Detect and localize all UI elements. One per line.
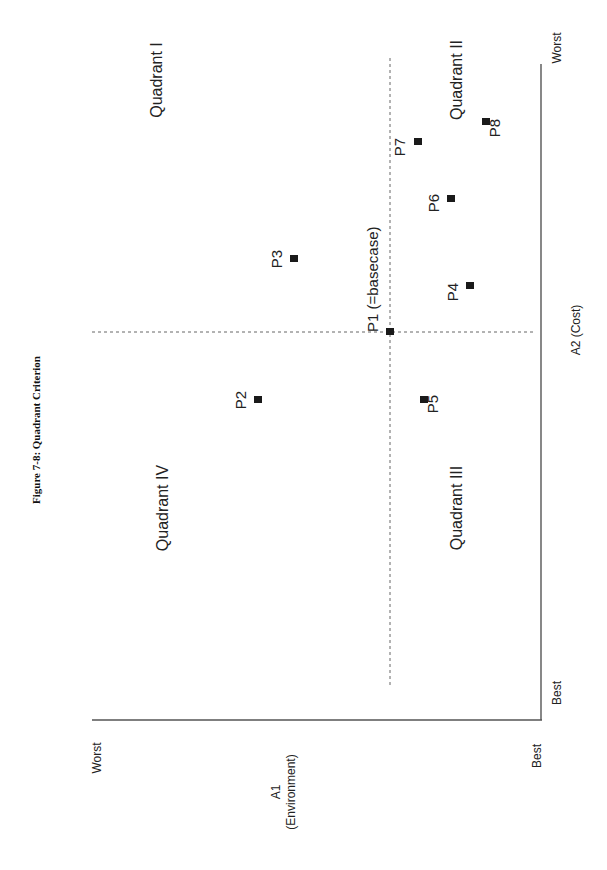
chart-title: Figure 7-8: Quadrant Criterion — [30, 356, 42, 504]
quadrant-label: Quadrant III — [448, 466, 465, 551]
a2-best-label: Best — [550, 680, 564, 705]
square-marker-icon — [466, 282, 474, 289]
square-marker-icon — [290, 255, 298, 262]
data-point: P6 — [425, 194, 455, 212]
point-label: P6 — [425, 194, 442, 212]
quadrant-labels: Quadrant IQuadrant IIQuadrant IIIQuadran… — [148, 40, 465, 551]
square-marker-icon — [386, 328, 394, 335]
data-point: P8 — [482, 118, 503, 137]
a1-axis-label-line1: A1 — [269, 784, 283, 799]
point-label: P1 (=basecase) — [364, 227, 381, 332]
data-points: P1 (=basecase)P2P3P4P5P6P7P8 — [232, 118, 503, 413]
a1-best-label: Best — [530, 743, 544, 768]
point-label: P2 — [232, 391, 249, 409]
square-marker-icon — [447, 195, 455, 202]
point-label: P8 — [486, 119, 503, 137]
a2-axis-label: A2 (Cost) — [569, 305, 583, 356]
point-label: P7 — [391, 138, 408, 156]
a2-worst-label: Worst — [550, 32, 564, 64]
a1-worst-label: Worst — [90, 742, 104, 774]
quadrant-label: Quadrant I — [148, 42, 165, 118]
point-label: P4 — [444, 283, 461, 301]
data-point: P5 — [420, 395, 441, 413]
quadrant-chart: Figure 7-8: Quadrant Criterion Worst Bes… — [0, 0, 607, 870]
point-label: P3 — [268, 250, 285, 268]
point-label: P5 — [424, 395, 441, 413]
square-marker-icon — [414, 138, 422, 145]
a1-axis-label-line2: (Environment) — [284, 754, 298, 829]
data-point: P3 — [268, 250, 298, 268]
data-point: P7 — [391, 138, 422, 156]
quadrant-label: Quadrant IV — [154, 465, 171, 552]
quadrant-label: Quadrant II — [448, 40, 465, 120]
square-marker-icon — [254, 396, 262, 403]
data-point: P4 — [444, 282, 474, 301]
data-point: P2 — [232, 391, 262, 409]
